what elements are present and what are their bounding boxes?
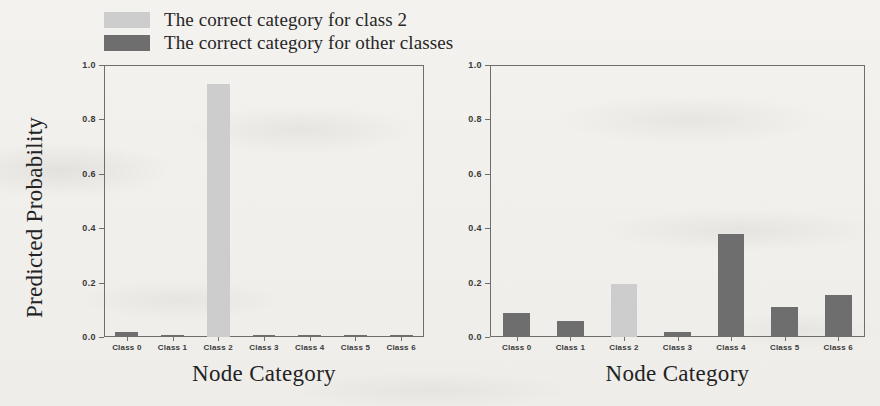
x-tick-label: Class 0 — [104, 343, 150, 352]
y-tick-mark — [485, 65, 490, 66]
x-tick-label: Class 0 — [490, 343, 544, 352]
y-tick-mark — [99, 337, 104, 338]
x-tick-mark — [355, 337, 356, 341]
y-tick-label: 0.6 — [450, 169, 482, 179]
y-tick-label: 0.8 — [64, 114, 96, 124]
y-tick-label: 1.0 — [450, 60, 482, 70]
x-tick-mark — [310, 337, 311, 341]
y-tick-mark — [99, 119, 104, 120]
bar-class-5 — [344, 335, 367, 337]
x-tick-label: Class 5 — [758, 343, 812, 352]
x-tick-mark — [401, 337, 402, 341]
x-axis-label-left: Node Category — [104, 361, 424, 387]
bar-class-5 — [771, 307, 798, 337]
y-tick-mark — [485, 174, 490, 175]
x-tick-label: Class 6 — [811, 343, 865, 352]
bar-class-3 — [664, 332, 691, 337]
plot-area-right — [490, 65, 865, 337]
bar-class-4 — [298, 335, 321, 337]
bar-class-1 — [557, 321, 584, 337]
x-tick-label: Class 1 — [544, 343, 598, 352]
y-tick-label: 0.2 — [450, 278, 482, 288]
x-axis-label-right: Node Category — [490, 361, 865, 387]
y-tick-mark — [99, 174, 104, 175]
y-tick-label: 0.0 — [450, 332, 482, 342]
x-tick-mark — [218, 337, 219, 341]
y-tick-label: 0.4 — [450, 223, 482, 233]
x-tick-label: Class 3 — [241, 343, 287, 352]
x-tick-label: Class 1 — [150, 343, 196, 352]
chart-panel-right: 0.00.20.40.60.81.0Class 0Class 1Class 2C… — [440, 0, 880, 406]
y-tick-mark — [99, 283, 104, 284]
x-tick-mark — [570, 337, 571, 341]
x-tick-label: Class 5 — [333, 343, 379, 352]
x-tick-mark — [173, 337, 174, 341]
x-tick-label: Class 4 — [287, 343, 333, 352]
y-tick-mark — [485, 337, 490, 338]
y-tick-mark — [99, 65, 104, 66]
y-tick-mark — [485, 119, 490, 120]
y-tick-mark — [485, 283, 490, 284]
x-tick-label: Class 4 — [704, 343, 758, 352]
bar-class-6 — [390, 335, 413, 337]
y-tick-label: 0.6 — [64, 169, 96, 179]
bar-class-4 — [718, 234, 745, 337]
x-tick-label: Class 3 — [651, 343, 705, 352]
y-tick-label: 0.8 — [450, 114, 482, 124]
x-tick-label: Class 2 — [597, 343, 651, 352]
x-tick-label: Class 2 — [195, 343, 241, 352]
bar-class-1 — [161, 335, 184, 337]
y-tick-label: 0.2 — [64, 278, 96, 288]
figure-two-bar-charts: The correct category for class 2 The cor… — [0, 0, 880, 406]
bar-class-3 — [253, 335, 276, 337]
y-tick-label: 0.0 — [64, 332, 96, 342]
y-tick-mark — [485, 228, 490, 229]
bar-class-0 — [503, 313, 530, 337]
plot-area-left — [104, 65, 424, 337]
bar-class-2 — [611, 284, 638, 337]
chart-panel-left: Predicted Probability 0.00.20.40.60.81.0… — [0, 0, 440, 406]
y-tick-label: 1.0 — [64, 60, 96, 70]
x-tick-mark — [678, 337, 679, 341]
x-tick-mark — [838, 337, 839, 341]
bar-class-0 — [115, 332, 138, 337]
x-tick-label: Class 6 — [378, 343, 424, 352]
x-tick-mark — [264, 337, 265, 341]
y-tick-label: 0.4 — [64, 223, 96, 233]
x-tick-mark — [517, 337, 518, 341]
y-axis-label-left: Predicted Probability — [22, 117, 48, 318]
y-tick-mark — [99, 228, 104, 229]
x-tick-mark — [624, 337, 625, 341]
bar-class-2 — [207, 84, 230, 337]
bar-class-6 — [825, 295, 852, 337]
x-tick-mark — [785, 337, 786, 341]
x-tick-mark — [127, 337, 128, 341]
x-tick-mark — [731, 337, 732, 341]
